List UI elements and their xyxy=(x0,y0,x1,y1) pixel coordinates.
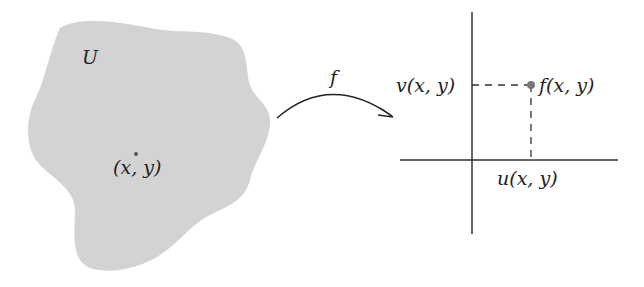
image-point xyxy=(527,81,535,89)
region-label: U xyxy=(82,48,98,67)
arrow-head-icon xyxy=(378,108,393,117)
diagram-canvas xyxy=(0,0,644,287)
region-u-shape xyxy=(28,21,270,271)
u-label: u(x, y) xyxy=(497,169,558,188)
map-arrow xyxy=(277,94,392,118)
image-point-label: f(x, y) xyxy=(539,76,594,95)
map-label: f xyxy=(330,68,337,87)
domain-point-label: (x, y) xyxy=(113,158,161,177)
v-label: v(x, y) xyxy=(396,76,455,95)
